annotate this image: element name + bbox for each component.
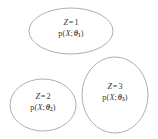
- cluster-2-ellipse: [10, 79, 76, 131]
- cluster-ellipses-layer: [0, 0, 158, 139]
- cluster-3-ellipse: [82, 57, 148, 133]
- mixture-model-diagram: Z = 1 p(X; θ1) Z = 2 p(X; θ2) Z = 3 p(X;…: [0, 0, 158, 139]
- cluster-1-ellipse: [29, 8, 113, 54]
